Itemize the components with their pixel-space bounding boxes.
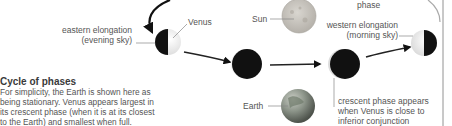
crescent-phase-label: crescent phase appears when Venus is clo… xyxy=(338,96,429,126)
orbit-arrow-top xyxy=(149,0,170,32)
caption-line: being stationary. Venus appears largest … xyxy=(0,97,160,107)
venus-label: Venus xyxy=(188,17,212,27)
orbit-arc-right xyxy=(428,0,440,22)
caption-line: For simplicity, the Earth is shown here … xyxy=(0,87,160,97)
caption-title: Cycle of phases xyxy=(0,76,160,87)
caption-line: its crescent phase (when it is at its cl… xyxy=(0,107,160,117)
caption-line: to the Earth) and smallest when full. xyxy=(0,117,160,126)
phase-label: phase xyxy=(357,0,380,10)
caption: Cycle of phases For simplicity, the Eart… xyxy=(0,76,160,126)
venus-western-elongation-icon xyxy=(411,30,437,56)
earth-label: Earth xyxy=(243,101,263,111)
venus-gibbous-dark-icon xyxy=(231,49,262,79)
western-elongation-label: western elongation (morning sky) xyxy=(320,20,398,40)
venus-crescent-icon xyxy=(328,49,360,79)
orbit-arrow-1 xyxy=(184,52,230,62)
sun-icon xyxy=(282,0,316,33)
orbit-arrow-3 xyxy=(366,47,410,57)
eastern-elongation-label: eastern elongation (evening sky) xyxy=(34,25,132,45)
sun-label: Sun xyxy=(252,14,267,24)
venus-eastern-elongation-icon xyxy=(155,29,181,55)
orbit-arrow-2 xyxy=(270,64,320,65)
